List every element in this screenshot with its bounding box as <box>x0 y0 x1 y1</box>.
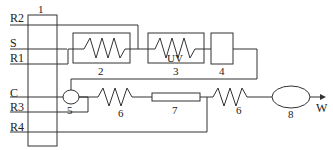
label-r1: R1 <box>10 51 24 65</box>
block-8: 8 <box>272 86 310 120</box>
svg-text:W: W <box>316 101 328 115</box>
block-2: 2 <box>73 33 130 77</box>
svg-text:4: 4 <box>219 65 225 77</box>
svg-text:6: 6 <box>236 104 242 116</box>
block-6b: 6 <box>200 88 272 116</box>
svg-text:8: 8 <box>288 108 294 120</box>
label-s: S <box>10 36 17 50</box>
svg-text:3: 3 <box>173 65 179 77</box>
label-r2: R2 <box>10 11 24 25</box>
block-6a: 6 <box>79 88 152 119</box>
process-flow-diagram: 1 R2 S R1 C R3 R4 2 UV 3 <box>0 0 333 150</box>
svg-text:7: 7 <box>172 104 178 116</box>
output-w: W <box>310 94 328 115</box>
block-3: UV 3 <box>148 33 204 77</box>
svg-text:1: 1 <box>38 3 44 15</box>
block-4: 4 <box>211 33 233 77</box>
svg-text:6: 6 <box>118 107 124 119</box>
label-c: C <box>10 86 18 100</box>
arrow-right-icon <box>320 94 326 100</box>
uv-label: UV <box>167 52 183 64</box>
svg-text:2: 2 <box>98 65 104 77</box>
block-1: 1 <box>28 3 57 146</box>
input-labels: R2 S R1 C R3 R4 <box>10 11 24 134</box>
svg-text:5: 5 <box>67 104 73 116</box>
block-7: 7 <box>152 93 200 116</box>
